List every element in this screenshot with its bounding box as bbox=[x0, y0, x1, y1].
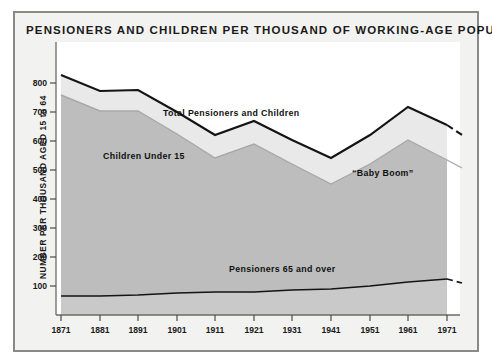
x-tick-1971: 1971 bbox=[437, 325, 456, 335]
x-tick-1911: 1911 bbox=[206, 325, 225, 335]
x-tick-1871: 1871 bbox=[51, 325, 70, 335]
total-series-label: Total Pensioners and Children bbox=[163, 108, 300, 118]
chart-figure: PENSIONERS AND CHILDREN PER THOUSAND OF … bbox=[0, 0, 492, 363]
x-tick-1931: 1931 bbox=[282, 325, 301, 335]
y-tick-300: 300 bbox=[33, 223, 48, 233]
x-axis-ticks bbox=[61, 315, 447, 321]
y-tick-600: 600 bbox=[33, 136, 48, 146]
x-tick-1901: 1901 bbox=[167, 325, 186, 335]
chart-plot: 800 700 600 500 400 300 200 100 1871 bbox=[0, 0, 492, 363]
baby-boom-annotation: “Baby Boom” bbox=[352, 168, 414, 178]
x-tick-1891: 1891 bbox=[128, 325, 147, 335]
x-tick-1941: 1941 bbox=[321, 325, 340, 335]
y-tick-500: 500 bbox=[33, 165, 48, 175]
y-axis-ticks bbox=[50, 83, 56, 286]
y-tick-200: 200 bbox=[33, 252, 48, 262]
x-tick-1951: 1951 bbox=[360, 325, 379, 335]
y-tick-700: 700 bbox=[33, 107, 48, 117]
y-axis-tick-labels: 800 700 600 500 400 300 200 100 bbox=[33, 78, 48, 291]
pensioners-series-label: Pensioners 65 and over bbox=[229, 264, 336, 274]
x-tick-1881: 1881 bbox=[90, 325, 109, 335]
y-tick-800: 800 bbox=[33, 78, 48, 88]
children-series-label: Children Under 15 bbox=[103, 151, 185, 161]
y-tick-400: 400 bbox=[33, 194, 48, 204]
y-tick-100: 100 bbox=[33, 281, 48, 291]
x-tick-1961: 1961 bbox=[398, 325, 417, 335]
x-axis-tick-labels: 1871 1881 1891 1901 1911 1921 1931 1941 … bbox=[51, 325, 456, 335]
x-tick-1921: 1921 bbox=[244, 325, 263, 335]
